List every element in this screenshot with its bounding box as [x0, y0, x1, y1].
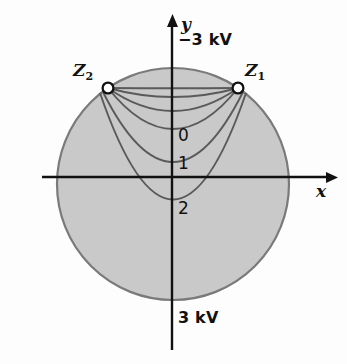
electrode-label-z2-subscript: 2: [85, 70, 93, 83]
contour-label-1: 1: [178, 155, 189, 172]
electrode-label-z1: Z1: [245, 62, 265, 82]
x-axis-label: x: [316, 183, 326, 200]
potential-label-top: −3 kV: [178, 32, 232, 48]
contour-label-0: 0: [178, 127, 189, 144]
electrode-label-z2-base: Z: [73, 60, 85, 80]
diagram-svg: [0, 0, 347, 364]
electrode-label-z1-base: Z: [245, 60, 257, 80]
electrode-label-z1-subscript: 1: [257, 70, 265, 83]
electrode-label-z2: Z2: [73, 62, 93, 82]
y-axis-arrowhead: [167, 14, 178, 27]
figure-canvas: x y −3 kV 3 kV Z2 Z1 0 1 2: [0, 0, 347, 364]
contour-label-2: 2: [178, 200, 189, 217]
electrode-point-z1: [233, 83, 244, 94]
x-axis-arrowhead: [326, 172, 338, 183]
electrode-point-z2: [103, 83, 114, 94]
potential-label-bottom: 3 kV: [178, 310, 219, 326]
